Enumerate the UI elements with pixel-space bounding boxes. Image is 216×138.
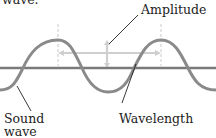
wavelength-label: Wavelength bbox=[119, 112, 193, 125]
sound-wave-leader-line bbox=[17, 86, 31, 111]
sound-wave-label-line2: wave bbox=[4, 125, 37, 138]
amplitude-label: Amplitude bbox=[141, 3, 206, 16]
amplitude-leader-line bbox=[109, 15, 138, 44]
